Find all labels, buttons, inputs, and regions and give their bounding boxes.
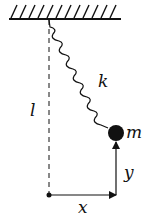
mass-label: m [126,124,142,141]
diagram-graphics [0,0,149,217]
spring-pendulum-diagram: k m l x y [0,0,149,217]
x-label: x [78,199,88,216]
length-label: l [30,102,35,119]
spring-constant-label: k [98,73,108,90]
y-label: y [124,164,134,181]
ceiling [9,5,121,19]
mass-icon [108,125,124,141]
